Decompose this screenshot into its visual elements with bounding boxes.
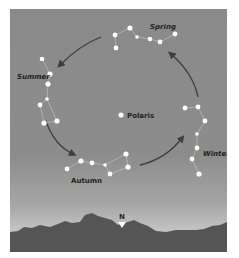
label-polaris: Polaris [127,112,154,120]
label-autumn: Autumn [71,177,102,185]
compass-label: N [119,213,125,221]
label-spring: Spring [150,23,176,31]
label-winter: Winter [203,150,227,158]
label-summer: Summer [17,73,50,81]
polaris-star [118,112,123,117]
sky-diagram: Spring Summer Autumn Winter Polaris N [10,9,227,252]
